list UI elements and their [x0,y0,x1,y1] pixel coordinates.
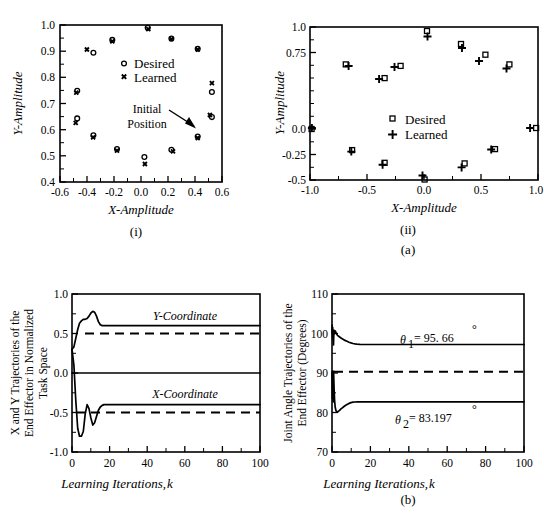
legend-marker-desired [390,116,395,121]
y-axis-title: Y-Amplitude [10,71,25,135]
theta2-symbol: θ [395,413,401,427]
x-tick-label: 0.5 [474,184,489,196]
y-axis-title: X and Y Trajectories of the End Effector… [9,309,50,437]
x-axis-title: X-Amplitude [390,200,457,215]
x-axis-tick-labels: 0 20 40 60 80 100 [69,457,269,469]
y-tick-label: 0.8 [41,71,56,83]
y-axis-title: Joint Angle Trajectories of the End Effe… [282,303,309,442]
caption-a: (a) [401,242,415,257]
legend-label-desired: Desired [405,112,446,127]
y-axis-tick-labels: 1.0 0.9 0.8 0.7 0.6 0.5 0.4 [41,19,56,188]
x-axis-ticks [60,176,222,182]
subcaption-i: (i) [130,224,142,239]
curve-theta2 [332,371,524,412]
y-tick-label: 0.7 [41,98,56,110]
y-axis-title-line2: End Effector in Normalized [23,309,35,437]
subcaption-ii: (ii) [400,222,416,237]
series-desired-points [309,29,538,183]
x-tick-label: 1.0 [529,184,544,196]
x-tick-label: 20 [104,457,116,469]
plot-frame [332,294,524,452]
x-tick-label: 40 [141,457,153,469]
x-tick-label: -0.5 [358,184,376,196]
panel-b-left: 1.0 0.5 0.0 -0.5 -1.0 0 20 40 60 80 1 [0,262,272,517]
y-axis-title: Y-Amplitude [272,71,287,135]
x-tick-label: -1.0 [301,184,319,196]
y-axis-title-line3: Task Space [37,347,50,399]
y-tick-label: 0.0 [292,123,307,135]
y-tick-label: 0.9 [41,45,56,57]
y-tick-label: -0.25 [282,149,306,161]
x-tick-label: -0.4 [78,186,96,198]
legend-marker-learned [388,130,397,139]
theta1-symbol: θ [400,333,406,347]
x-tick-label: 0.6 [215,186,230,198]
y-tick-label: 110 [311,288,328,300]
legend-marker-desired [122,61,127,66]
panel-a-ii: 1.0 0.75 0.0 -0.25 -0.5 -1.0 -0.5 0.0 0.… [272,0,544,262]
panel-b-left-svg: 1.0 0.5 0.0 -0.5 -1.0 0 20 40 60 80 1 [0,262,272,517]
y-tick-label: 1.0 [54,288,69,300]
x-tick-label: 80 [217,457,229,469]
x-tick-label: 20 [365,457,377,469]
y-tick-label: 70 [317,446,329,458]
series-desired-points [75,25,215,159]
theta2-value: = 83.197 [409,411,452,425]
x-tick-label: 0 [69,457,75,469]
x-axis-title: Learning Iterations, k [322,476,435,491]
x-tick-label: -0.2 [105,186,123,198]
y-axis-title-line2: End Effector (Degrees) [296,319,309,426]
y-tick-label: 1.0 [292,21,307,33]
x-tick-label: 80 [480,457,492,469]
label-y-coordinate: Y-Coordinate [153,309,218,323]
x-axis-title-k: k [167,476,173,491]
y-tick-label: 0.0 [54,367,69,379]
x-axis-tick-labels: 0 20 40 60 80 100 [329,457,533,469]
panel-a-i: 1.0 0.9 0.8 0.7 0.6 0.5 0.4 -0.6 -0 [0,0,272,262]
y-axis-ticks [60,25,66,182]
annotation-line-1: Initial [133,102,162,116]
series-learned-points [308,33,534,180]
x-tick-label: 100 [251,457,269,469]
y-tick-label: 0.5 [54,328,69,340]
initial-position-annotation: Initial Position [127,102,196,131]
x-tick-label: 100 [515,457,533,469]
y-tick-label: 0.6 [41,124,56,136]
x-axis-title-k: k [429,476,435,491]
y-tick-label: 0.5 [41,150,56,162]
y-tick-label: 100 [311,328,329,340]
x-tick-label: 0.0 [417,184,432,196]
y-axis-tick-labels: 110 100 90 80 70 [311,288,329,458]
legend-label-learned: Learned [134,70,177,85]
x-tick-label: 0.4 [188,186,203,198]
y-tick-label: -0.5 [50,407,68,419]
x-tick-label: 0.2 [161,186,176,198]
x-axis-tick-labels: -0.6 -0.4 -0.2 0.0 0.2 0.4 0.6 [51,186,230,198]
legend: Desired Learned [122,56,177,85]
y-tick-label: 90 [317,367,329,379]
plot-frame [310,27,538,180]
theta1-degree-sign: ° [472,322,477,336]
y-axis-title-line1: X and Y Trajectories of the [9,311,22,436]
y-axis-title-line1: Joint Angle Trajectories of the [282,303,295,442]
x-axis-ticks [332,446,524,452]
x-axis-title: X-Amplitude [107,202,174,217]
panel-b-right: 110 100 90 80 70 0 20 40 60 80 100 [272,262,544,517]
theta2-degree-sign: ° [472,402,477,416]
legend: Desired Learned [388,112,448,142]
caption-b: (b) [400,492,415,507]
x-axis-ticks [72,446,260,452]
x-tick-label: 40 [403,457,415,469]
theta1-annotation: θ 1 = 95. 66 ° [400,322,477,351]
y-axis-tick-labels: 1.0 0.5 0.0 -0.5 -1.0 [50,288,68,458]
x-tick-label: -0.6 [51,186,69,198]
legend-label-learned: Learned [405,127,448,142]
annotation-line-2: Position [127,117,166,131]
annotation-arrow-head [185,117,196,129]
y-tick-label: -1.0 [50,446,68,458]
y-tick-label: 80 [317,407,329,419]
x-axis-title-main: Learning Iterations, [322,476,428,491]
x-axis-tick-labels: -1.0 -0.5 0.0 0.5 1.0 [301,184,544,196]
theta2-annotation: θ 2 = 83.197 ° [395,402,477,431]
theta1-value: = 95. 66 [414,331,454,345]
